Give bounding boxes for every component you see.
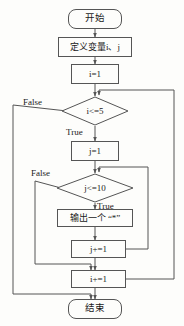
node-declare-variables[interactable]: 定义变量i、j bbox=[58, 37, 132, 57]
label-condition-i-false: False bbox=[23, 97, 42, 107]
node-output-star[interactable]: 输出一个 “*” bbox=[57, 209, 133, 227]
node-increment-i[interactable]: i+=1 bbox=[71, 270, 126, 288]
node-output-star-label: 输出一个 “*” bbox=[70, 214, 121, 223]
node-init-j[interactable]: j=1 bbox=[71, 141, 119, 161]
node-condition-i[interactable]: i<=5 bbox=[61, 96, 129, 126]
node-condition-j-label: j<=10 bbox=[84, 184, 106, 193]
node-init-i-label: i=1 bbox=[89, 70, 101, 79]
flowchart-canvas: 开始 定义变量i、j i=1 i<=5 j=1 j<=10 输出一个 “*” j… bbox=[0, 0, 184, 326]
node-increment-i-label: i+=1 bbox=[90, 275, 107, 284]
node-increment-j-label: j+=1 bbox=[90, 245, 107, 254]
node-start[interactable]: 开始 bbox=[68, 9, 122, 29]
node-init-j-label: j=1 bbox=[89, 147, 101, 156]
node-condition-i-label: i<=5 bbox=[86, 107, 103, 116]
node-condition-j[interactable]: j<=10 bbox=[56, 173, 134, 203]
node-declare-variables-label: 定义变量i、j bbox=[70, 43, 120, 52]
label-condition-i-true: True bbox=[66, 127, 83, 137]
node-start-label: 开始 bbox=[85, 14, 105, 24]
label-condition-j-true: True bbox=[97, 201, 114, 211]
node-increment-j[interactable]: j+=1 bbox=[71, 240, 126, 258]
label-condition-j-false: False bbox=[31, 168, 50, 178]
node-end-label: 结束 bbox=[85, 304, 105, 314]
node-init-i[interactable]: i=1 bbox=[71, 64, 119, 84]
node-end[interactable]: 结束 bbox=[68, 299, 122, 319]
